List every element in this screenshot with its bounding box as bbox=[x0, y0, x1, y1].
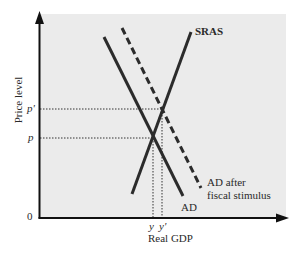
y-axis-title: Price level bbox=[12, 77, 24, 124]
y-prime-label: y' bbox=[158, 220, 167, 232]
ad-after-label-line1: AD after bbox=[207, 176, 246, 188]
ad-after-label-line2: fiscal stimulus bbox=[207, 189, 271, 201]
ad-label: AD bbox=[181, 201, 197, 213]
p-label: p bbox=[27, 131, 34, 143]
ad-as-diagram: SRAS AD AD after fiscal stimulus p' p 0 … bbox=[0, 0, 302, 255]
p-prime-label: p' bbox=[26, 102, 36, 114]
y-label: y bbox=[148, 220, 154, 232]
origin-label: 0 bbox=[27, 210, 33, 222]
sras-label: SRAS bbox=[195, 25, 223, 37]
plot-area bbox=[40, 14, 286, 218]
x-axis-title: Real GDP bbox=[148, 232, 193, 244]
